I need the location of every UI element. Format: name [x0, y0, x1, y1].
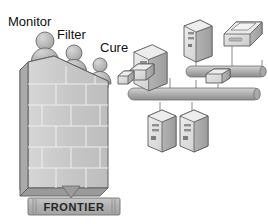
label-filter: Filter [57, 27, 87, 42]
diagram-canvas: FRONTIER Monitor Filter Cure [0, 0, 268, 224]
server-lower-right [180, 110, 208, 152]
server-lower-left [148, 110, 176, 152]
label-cure: Cure [100, 40, 128, 55]
banner-label: FRONTIER [43, 201, 104, 213]
label-monitor: Monitor [8, 14, 52, 29]
brick-wall [20, 56, 108, 196]
server-top [184, 20, 212, 62]
